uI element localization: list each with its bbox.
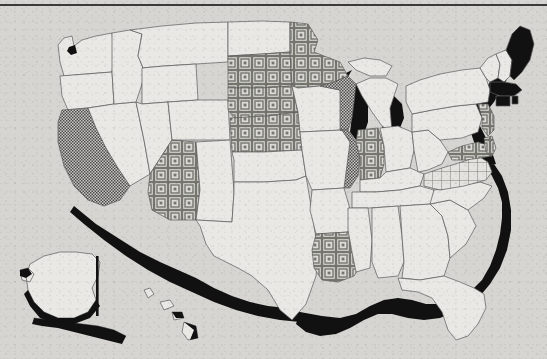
state-RI[interactable] [512, 96, 518, 104]
state-OK[interactable] [232, 150, 306, 182]
state-ND[interactable] [228, 21, 290, 56]
state-IA[interactable] [292, 86, 344, 132]
state-NM[interactable] [196, 140, 234, 222]
state-AR[interactable] [310, 188, 352, 234]
state-ME[interactable] [506, 26, 534, 80]
state-MN[interactable] [290, 22, 348, 88]
state-KS[interactable] [230, 112, 302, 152]
state-AL[interactable] [372, 206, 404, 278]
state-WA[interactable] [58, 33, 114, 76]
state-CT[interactable] [496, 96, 510, 106]
state-HI[interactable] [144, 288, 198, 340]
state-ID[interactable] [112, 30, 144, 104]
state-MT[interactable] [130, 22, 228, 70]
state-WY[interactable] [142, 64, 198, 104]
state-SD[interactable] [228, 52, 292, 88]
state-OR[interactable] [60, 72, 114, 110]
us-choropleth-map[interactable] [0, 0, 547, 359]
state-IN[interactable] [356, 128, 384, 180]
state-MA[interactable] [490, 82, 522, 96]
map-page [0, 0, 547, 359]
state-OH[interactable] [380, 126, 414, 172]
alaska-inset-divider [96, 256, 99, 316]
state-CO[interactable] [168, 100, 230, 140]
